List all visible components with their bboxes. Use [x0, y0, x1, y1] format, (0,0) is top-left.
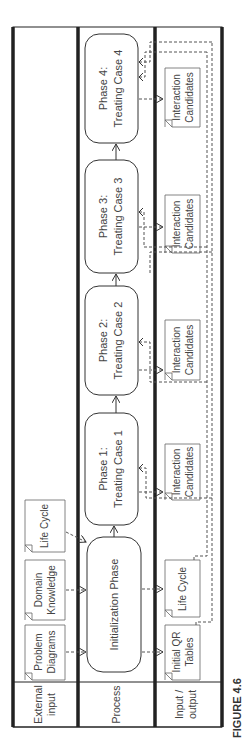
- doc-interaction-candidates-3: Interaction Candidates: [165, 195, 200, 253]
- svg-text:Life Cycle: Life Cycle: [177, 567, 188, 611]
- svg-text:Process: Process: [110, 686, 122, 724]
- doc-life-cycle-external: Life Cycle: [25, 500, 65, 552]
- svg-text:Interaction: Interaction: [171, 449, 182, 496]
- diagram-stage: External input Process Input / output Pr…: [0, 0, 244, 742]
- svg-text:Treating Case 3: Treating Case 3: [112, 178, 124, 256]
- process-init-phase: Initialization Phase: [87, 537, 141, 672]
- svg-text:Interaction: Interaction: [171, 201, 182, 248]
- process-phase-4: Phase 4: Treating Case 4: [85, 34, 138, 143]
- svg-text:Phase 3:: Phase 3:: [97, 195, 109, 238]
- svg-text:Candidates: Candidates: [184, 447, 195, 498]
- svg-text:Phase 2:: Phase 2:: [97, 319, 109, 362]
- doc-initial-qr-tables: Initial QR Tables: [165, 625, 200, 680]
- doc-interaction-candidates-1: Interaction Candidates: [165, 444, 200, 500]
- svg-text:Life Cycle: Life Cycle: [39, 504, 50, 548]
- output-arrows: [139, 99, 163, 652]
- svg-text:Phase 4:: Phase 4:: [97, 67, 109, 110]
- svg-text:Candidates: Candidates: [184, 325, 195, 376]
- svg-text:Interaction: Interaction: [171, 74, 182, 121]
- svg-text:Candidates: Candidates: [184, 72, 195, 123]
- svg-text:Diagrams: Diagrams: [46, 631, 57, 674]
- lane-label-io: Input / output: [173, 690, 198, 719]
- lane-label-process: Process: [110, 686, 122, 724]
- svg-text:Treating Case 4: Treating Case 4: [112, 50, 124, 128]
- svg-text:Domain: Domain: [33, 573, 44, 607]
- figure-caption: FIGURE 4.6: [231, 678, 243, 738]
- svg-text:Treating Case 1: Treating Case 1: [112, 430, 124, 508]
- doc-domain-knowledge: Domain Knowledge: [25, 560, 65, 620]
- svg-text:Tables: Tables: [184, 638, 195, 667]
- doc-interaction-candidates-4: Interaction Candidates: [165, 68, 200, 127]
- process-diagram: External input Process Input / output Pr…: [0, 0, 244, 742]
- svg-text:Treating Case 2: Treating Case 2: [112, 302, 124, 380]
- svg-text:output: output: [186, 690, 198, 719]
- svg-text:Initialization Phase: Initialization Phase: [108, 559, 120, 651]
- svg-text:External: External: [32, 685, 44, 724]
- svg-text:input: input: [45, 693, 57, 716]
- lane-label-external: External input: [32, 685, 57, 724]
- svg-text:Problem: Problem: [33, 633, 44, 670]
- svg-text:Phase 1:: Phase 1:: [97, 447, 109, 490]
- feedback-arrowheads: [139, 58, 143, 472]
- doc-problem-diagrams: Problem Diagrams: [25, 625, 65, 680]
- svg-text:Interaction: Interaction: [171, 327, 182, 374]
- doc-interaction-candidates-2: Interaction Candidates: [165, 320, 200, 380]
- svg-text:Candidates: Candidates: [184, 199, 195, 250]
- process-phase-3: Phase 3: Treating Case 3: [85, 160, 138, 273]
- process-phase-1: Phase 1: Treating Case 1: [85, 413, 138, 525]
- svg-text:Initial QR: Initial QR: [171, 631, 182, 672]
- external-input-arrows: [66, 532, 86, 652]
- doc-life-cycle-io: Life Cycle: [165, 560, 200, 617]
- svg-text:Knowledge: Knowledge: [46, 565, 57, 615]
- svg-text:Input /: Input /: [173, 690, 185, 719]
- process-phase-2: Phase 2: Treating Case 2: [85, 286, 138, 395]
